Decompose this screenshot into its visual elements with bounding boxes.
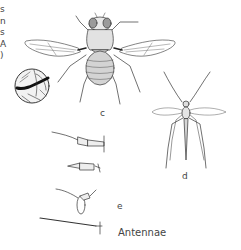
antennae-set [40,132,104,234]
insect-illustration [0,0,241,250]
mosquito-drawing [152,72,226,168]
antennae-caption: Antennae [118,227,166,238]
label-mosquito: d [182,171,188,181]
label-fly: c [100,108,105,118]
wing-detail-inset [15,69,49,103]
label-antennae-group: e [117,201,123,211]
